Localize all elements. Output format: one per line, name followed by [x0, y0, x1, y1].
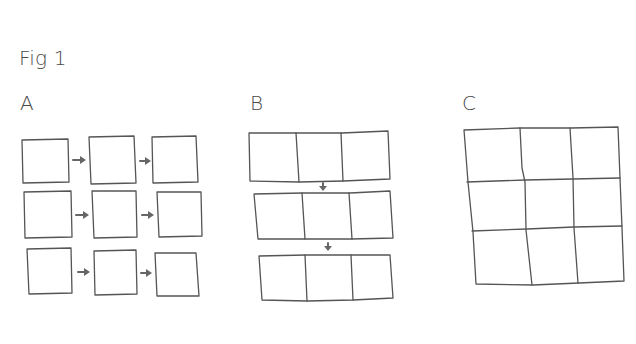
panel-a-cell	[155, 253, 199, 296]
panel-a-cell	[22, 139, 69, 183]
panel-a-cell	[157, 192, 202, 237]
arrow-right-icon	[142, 211, 154, 219]
panel-b	[249, 131, 393, 301]
arrow-right-icon	[140, 157, 151, 165]
arrow-right-icon	[141, 269, 152, 277]
panel-a-cell	[89, 136, 136, 184]
panel-c	[464, 127, 624, 285]
panel-c-outline	[464, 127, 624, 285]
panel-a	[22, 136, 202, 296]
panel-a-cell	[92, 191, 137, 238]
panel-a-row-3	[27, 248, 199, 296]
arrow-down-icon	[324, 243, 332, 251]
panel-a-row-1	[22, 136, 198, 184]
panel-a-cell	[24, 191, 72, 238]
arrow-right-icon	[73, 156, 86, 164]
arrow-down-icon	[319, 183, 327, 191]
panel-b-strip-2	[254, 191, 393, 239]
arrow-right-icon	[76, 211, 89, 219]
panel-b-strip-1	[249, 131, 390, 182]
arrow-right-icon	[78, 268, 90, 276]
panel-a-cell	[94, 250, 137, 295]
panel-b-strip-3	[259, 255, 393, 301]
figure-drawing	[0, 0, 636, 344]
panel-a-cell	[27, 248, 72, 294]
panel-a-cell	[152, 136, 198, 183]
panel-a-row-2	[24, 191, 202, 238]
